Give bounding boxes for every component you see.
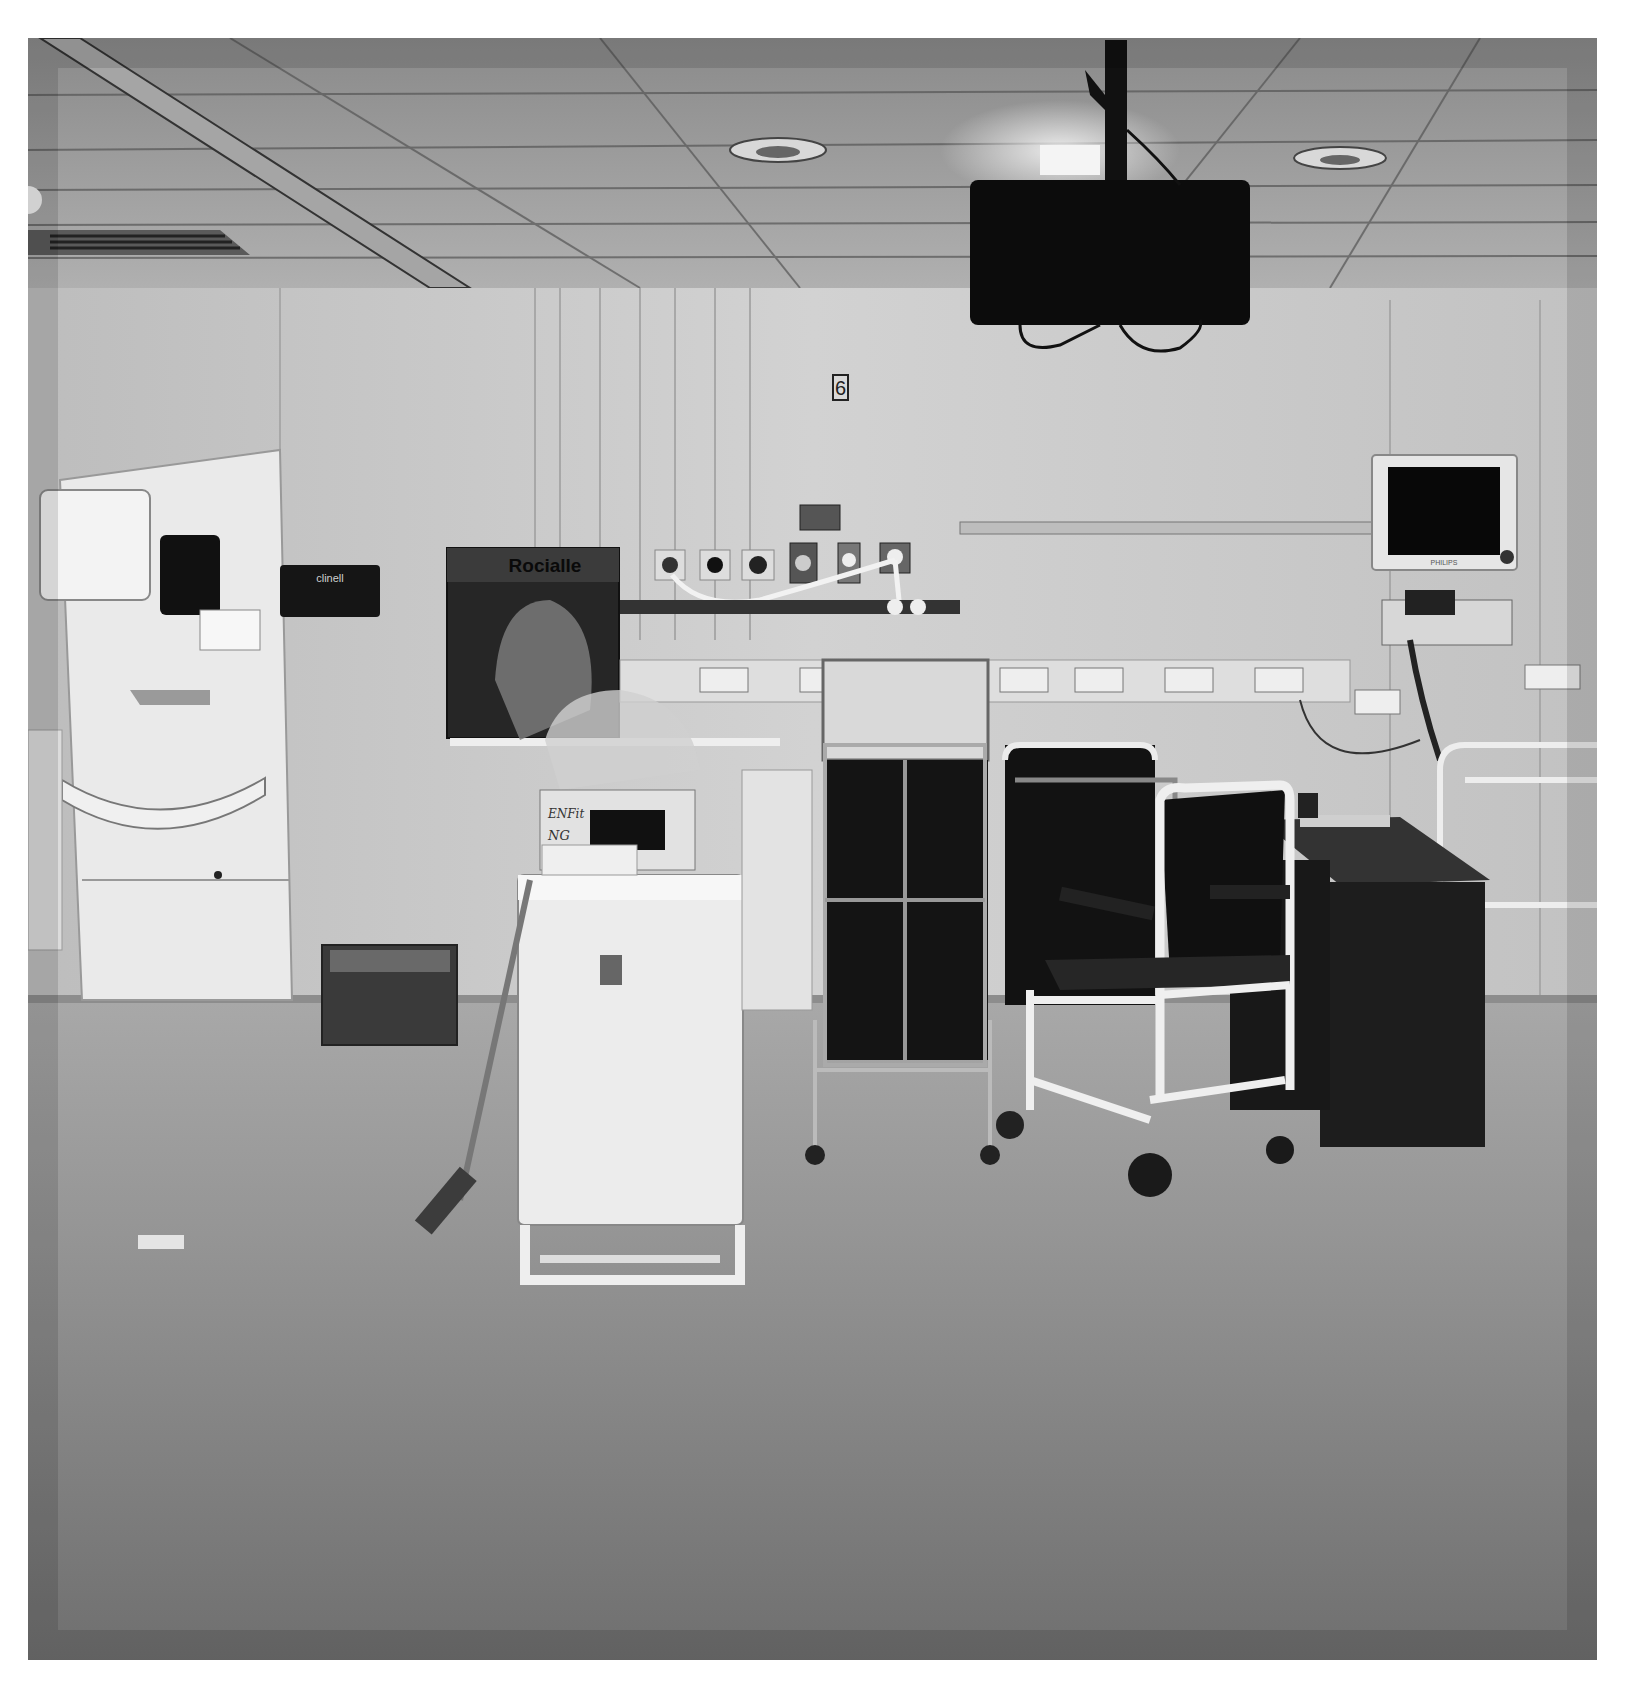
air-vent (28, 230, 250, 255)
handwash-station (40, 450, 292, 1000)
labelled-box: ENFit NG Giving sets (540, 790, 695, 875)
wipes-dispenser-label: clinell (316, 572, 344, 584)
cabinet-emblem (600, 955, 622, 985)
soap-dispenser (160, 535, 220, 615)
supply-box-brand: Rocialle (509, 555, 582, 576)
ceiling-light-left (730, 138, 826, 162)
floor-marker (138, 1235, 184, 1249)
monitor-brand: PHILIPS (1431, 559, 1458, 566)
bay-number: 6 (835, 377, 846, 399)
ward-photo: 6 clinell Rocialle (0, 0, 1635, 1691)
box-label-line1: ENFit (547, 807, 584, 821)
wipes-dispenser: clinell (280, 565, 380, 617)
box-label-line2: NG (547, 828, 570, 843)
equipment-rail (960, 522, 1375, 534)
ceiling-light-right (1294, 147, 1386, 169)
bay-number-sign: 6 (833, 375, 848, 400)
monitor-screen (1388, 467, 1500, 555)
